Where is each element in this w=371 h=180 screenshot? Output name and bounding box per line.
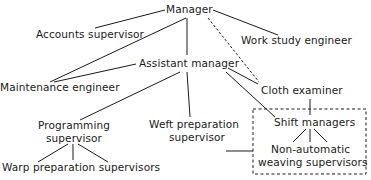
node-label-line-2: weaving supervisors — [258, 156, 363, 169]
node-label: Cloth examiner — [261, 84, 343, 96]
node-weft-preparation-supervisor: Weft preparation supervisor — [148, 118, 240, 144]
node-label: Work study engineer — [241, 34, 352, 46]
node-label-line-2: supervisor — [38, 132, 110, 145]
node-non-automatic-weaving-supervisors: Non-automatic weaving supervisors — [258, 143, 363, 169]
edge-assistant-cloth — [228, 68, 258, 84]
edge-programming-warp-left — [38, 144, 68, 162]
node-label: Warp preparation supervisors — [2, 161, 160, 173]
node-label: Accounts supervisor — [36, 28, 144, 40]
node-assistant-manager: Assistant manager — [139, 57, 239, 70]
node-label-line-1: Weft preparation — [148, 118, 240, 131]
edge-programming-warp-right — [78, 144, 108, 162]
node-programming-supervisor: Programming supervisor — [38, 119, 110, 145]
node-label-line-1: Non-automatic — [258, 143, 363, 156]
edge-manager-accounts — [95, 10, 165, 28]
edge-manager-cloth-dashed — [208, 18, 259, 82]
node-label-line-1: Programming — [38, 119, 110, 132]
edge-assistant-weft — [187, 72, 190, 117]
edge-shift-nonauto-right — [314, 129, 327, 142]
node-label: Shift managers — [274, 116, 355, 128]
node-label: Manager — [166, 3, 213, 15]
edge-shift-nonauto-left — [293, 129, 306, 142]
edge-manager-workstudy — [213, 10, 278, 35]
node-label: Assistant manager — [139, 57, 239, 69]
node-cloth-examiner: Cloth examiner — [261, 84, 343, 97]
node-maintenance-engineer: Maintenance engineer — [0, 81, 120, 94]
node-manager: Manager — [166, 3, 213, 16]
edge-assistant-maintenance — [54, 64, 136, 82]
node-label-line-2: supervisor — [148, 131, 240, 144]
node-shift-managers: Shift managers — [274, 116, 355, 129]
org-chart: Manager Accounts supervisor Work study e… — [0, 0, 371, 180]
node-warp-preparation-supervisors: Warp preparation supervisors — [2, 161, 160, 174]
node-label: Maintenance engineer — [0, 81, 120, 93]
node-work-study-engineer: Work study engineer — [241, 34, 352, 47]
node-accounts-supervisor: Accounts supervisor — [36, 28, 144, 41]
edge-assistant-programming — [80, 72, 180, 120]
